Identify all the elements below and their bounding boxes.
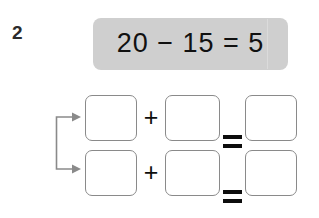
answer-box-addend-1[interactable] (85, 95, 137, 141)
equals-bar-bottom (223, 144, 242, 148)
answer-box-addend-2[interactable] (165, 95, 220, 141)
plus-operator-icon: + (137, 160, 165, 187)
equation-banner: 20 − 15 = 5 (93, 18, 288, 70)
question-number: 2 (12, 23, 23, 42)
equals-bar-top (223, 135, 242, 139)
plus-operator-icon: + (137, 105, 165, 132)
answer-row: + (85, 95, 297, 141)
answer-box-addend-1[interactable] (85, 150, 137, 196)
answer-box-sum[interactable] (245, 150, 297, 196)
bracket-arrow-icon (50, 108, 84, 178)
answer-row: + (85, 150, 297, 196)
equals-bar-bottom (223, 199, 242, 203)
equals-bar-top (223, 190, 242, 194)
answer-box-sum[interactable] (245, 95, 297, 141)
worksheet-exercise: 2 20 − 15 = 5 + + (0, 0, 319, 218)
equation-text: 20 − 15 = 5 (93, 18, 288, 70)
answer-box-addend-2[interactable] (165, 150, 220, 196)
